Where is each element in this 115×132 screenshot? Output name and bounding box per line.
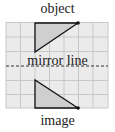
vertex-dot — [76, 106, 80, 110]
mirror-line-label: mirror line — [0, 54, 115, 68]
image-label: image — [0, 114, 115, 128]
vertex-dot — [76, 21, 80, 25]
